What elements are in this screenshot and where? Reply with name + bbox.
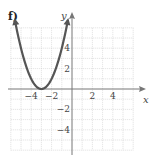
- axes: [8, 12, 146, 155]
- y-tick-label: 2: [64, 64, 70, 74]
- y-axis-label: y: [60, 10, 67, 21]
- y-axis-arrow-icon: [69, 12, 75, 19]
- x-tick-label: 2: [90, 91, 96, 101]
- parabola-graph: f) y x −4−22442−2−4: [0, 0, 153, 157]
- y-tick-label: −4: [57, 125, 71, 135]
- x-tick-label: −4: [25, 91, 39, 101]
- x-tick-label: 4: [110, 91, 116, 101]
- x-tick-label: −2: [45, 91, 58, 101]
- x-axis-label: x: [143, 94, 149, 105]
- y-tick-label: 4: [64, 43, 70, 53]
- y-tick-label: −2: [57, 104, 70, 114]
- x-axis-arrow-icon: [139, 86, 146, 92]
